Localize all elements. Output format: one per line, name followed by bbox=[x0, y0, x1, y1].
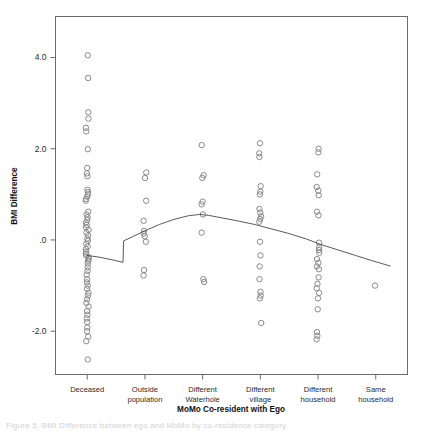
data-point bbox=[257, 276, 262, 281]
data-point bbox=[143, 239, 148, 244]
data-point bbox=[85, 268, 90, 273]
x-axis-ticks bbox=[87, 375, 376, 380]
y-tick-label-2: .0 bbox=[39, 235, 46, 245]
data-point bbox=[259, 320, 264, 325]
data-point bbox=[85, 357, 90, 362]
data-point bbox=[199, 142, 204, 147]
data-point bbox=[144, 170, 149, 175]
data-point bbox=[84, 129, 89, 134]
figure-caption: Figure 5. BMI Difference between ego and… bbox=[0, 421, 423, 434]
data-point bbox=[85, 147, 90, 152]
data-point bbox=[257, 154, 262, 159]
data-point bbox=[85, 75, 90, 80]
x-tick-label-4-line0: Different bbox=[304, 385, 333, 394]
data-point bbox=[372, 283, 377, 288]
x-tick-label-4-line1: household bbox=[301, 395, 336, 404]
data-point bbox=[141, 273, 146, 278]
scatter-plot: 4.02.0.0-2.0 DeceasedOutsidepopulationDi… bbox=[0, 0, 423, 434]
data-point bbox=[84, 328, 89, 333]
y-tick-label-3: -2.0 bbox=[32, 326, 47, 336]
data-point bbox=[199, 230, 204, 235]
data-point bbox=[143, 198, 148, 203]
y-tick-label-1: 2.0 bbox=[35, 144, 47, 154]
x-tick-label-2-line0: Different bbox=[188, 385, 217, 394]
y-tick-label-0: 4.0 bbox=[35, 52, 47, 62]
data-point bbox=[84, 339, 89, 344]
data-point bbox=[315, 172, 320, 177]
data-point bbox=[257, 239, 262, 244]
x-tick-label-0: Deceased bbox=[70, 385, 104, 394]
data-point bbox=[257, 141, 262, 146]
data-point bbox=[141, 267, 146, 272]
data-point bbox=[85, 53, 90, 58]
x-tick-label-3-line1: village bbox=[250, 395, 272, 404]
y-axis-title: BMI Difference bbox=[10, 167, 19, 225]
data-point bbox=[258, 183, 263, 188]
data-point bbox=[316, 150, 321, 155]
y-axis-tick-labels: 4.02.0.0-2.0 bbox=[32, 52, 47, 336]
x-axis-title: MoMo Co-resident with Ego bbox=[177, 405, 285, 414]
y-axis-ticks bbox=[51, 58, 56, 332]
data-point bbox=[86, 116, 91, 121]
data-point bbox=[84, 165, 89, 170]
data-point bbox=[314, 337, 319, 342]
data-point-group bbox=[83, 53, 378, 363]
x-tick-label-1-line1: population bbox=[127, 395, 162, 404]
x-axis-tick-labels: DeceasedOutsidepopulationDifferentWaterh… bbox=[70, 385, 393, 404]
figure-container: 4.02.0.0-2.0 DeceasedOutsidepopulationDi… bbox=[0, 0, 423, 434]
x-tick-label-5-line0: Same bbox=[366, 385, 386, 394]
data-point bbox=[84, 319, 89, 324]
data-point bbox=[257, 264, 262, 269]
data-point bbox=[258, 253, 263, 258]
x-tick-label-1-line0: Outside bbox=[132, 385, 158, 394]
data-point bbox=[142, 175, 147, 180]
plot-frame bbox=[56, 17, 408, 375]
data-point bbox=[316, 290, 321, 295]
x-tick-label-5-line1: household bbox=[358, 395, 393, 404]
data-point bbox=[315, 307, 320, 312]
trend-line bbox=[87, 214, 390, 266]
x-tick-label-3-line0: Different bbox=[246, 385, 275, 394]
data-point bbox=[141, 218, 146, 223]
data-point bbox=[315, 296, 320, 301]
x-tick-label-2-line1: Waterhole bbox=[185, 395, 219, 404]
data-point bbox=[257, 206, 262, 211]
data-point bbox=[86, 110, 91, 115]
data-point bbox=[316, 275, 321, 280]
